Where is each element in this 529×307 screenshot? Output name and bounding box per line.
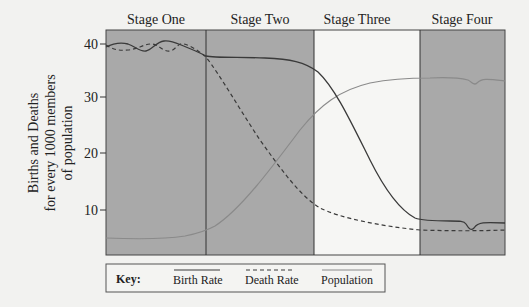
legend-population: Population [321, 273, 373, 287]
y-tick-10: 10 [84, 203, 98, 218]
legend-key-label: Key: [116, 272, 141, 286]
stage-one-region [106, 30, 206, 255]
stage-label-three: Stage Three [324, 12, 391, 27]
y-tick-40: 40 [84, 37, 98, 52]
stage-label-two: Stage Two [230, 12, 289, 27]
y-tick-30: 30 [84, 90, 98, 105]
legend-birth-rate: Birth Rate [173, 273, 223, 287]
svg-text:of population: of population [60, 105, 75, 180]
svg-text:for every 1000 members: for every 1000 members [43, 74, 58, 211]
legend-death-rate: Death Rate [245, 273, 299, 287]
demographic-transition-chart: Stage One Stage Two Stage Three Stage Fo… [0, 0, 529, 307]
y-axis-label: Births and Deaths for every 1000 members… [26, 74, 75, 211]
stage-label-four: Stage Four [431, 12, 492, 27]
svg-text:Births and Deaths: Births and Deaths [26, 93, 41, 193]
y-tick-20: 20 [84, 146, 98, 161]
y-axis: 40 30 20 10 [84, 37, 106, 218]
stage-label-one: Stage One [127, 12, 185, 27]
stage-three-region [314, 30, 420, 255]
